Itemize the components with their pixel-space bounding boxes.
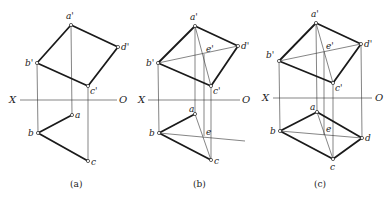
caption-a: (a) (70, 179, 82, 189)
front-view-plane (158, 26, 238, 86)
point-b (157, 131, 160, 134)
panel-b: X O a' d' b' c' e' a b e c (b) (137, 12, 250, 189)
label-e: e (326, 124, 331, 134)
axis-x-label: X (137, 94, 146, 105)
label-c: c (214, 156, 219, 166)
point-d-prime (236, 44, 239, 47)
point-d-prime (359, 42, 362, 45)
projection-line-a (316, 23, 317, 112)
axis-x-label: X (8, 94, 17, 105)
label-b: b (270, 126, 276, 136)
label-c-prime: c' (213, 86, 221, 96)
label-a: a (189, 104, 194, 114)
label-c: c (330, 162, 335, 172)
axis-o-label: O (375, 92, 383, 103)
point-a-prime (193, 24, 196, 27)
label-d: d (365, 133, 371, 143)
point-d-prime (116, 45, 119, 48)
label-b-prime: b' (266, 50, 274, 60)
panel-a: X O a' d' b' c' a b c (a) (8, 11, 129, 189)
diagonal-b-prime-d-prime (158, 46, 238, 63)
projection-line-a (71, 25, 72, 115)
label-a-prime: a' (311, 9, 319, 19)
projection-line-b (37, 63, 38, 133)
point-a (315, 110, 318, 113)
point-a-prime (314, 21, 317, 24)
point-d (360, 136, 363, 139)
label-a: a (310, 102, 315, 112)
label-e-prime: e' (326, 41, 334, 51)
label-b: b (149, 128, 155, 138)
label-d-prime: d' (241, 41, 249, 51)
projection-line-b (158, 63, 159, 133)
label-c-prime: c' (90, 86, 98, 96)
axis-o-label: O (242, 94, 250, 105)
front-view-plane (37, 25, 118, 86)
point-b-prime (156, 61, 159, 64)
axis-o-label: O (119, 94, 127, 105)
label-d-prime: d' (121, 42, 129, 52)
point-c (331, 157, 334, 160)
point-c (86, 159, 89, 162)
point-b-prime (277, 59, 280, 62)
label-d-prime: d' (364, 39, 372, 49)
axis-x-label: X (261, 92, 270, 103)
panel-c: X O a' d' b' c' e' a b e d c (c) (261, 9, 383, 189)
label-c: c (91, 157, 96, 167)
orthographic-projection-diagram: X O a' d' b' c' a b c (a) X O (0, 0, 389, 200)
point-a-prime (69, 23, 72, 26)
label-a: a (75, 110, 80, 120)
point-b-prime (35, 61, 38, 64)
label-b: b (28, 128, 34, 138)
label-b-prime: b' (146, 58, 154, 68)
top-view-plane (280, 112, 362, 159)
point-a (70, 113, 73, 116)
diagonal-a-prime-c-prime (195, 26, 211, 86)
caption-b: (b) (193, 179, 206, 189)
label-a-prime: a' (190, 12, 198, 22)
point-b (278, 129, 281, 132)
label-e-prime: e' (206, 44, 214, 54)
projection-line-d (361, 44, 362, 138)
point-b (36, 131, 39, 134)
point-c (209, 158, 212, 161)
label-c-prime: c' (335, 83, 343, 93)
label-e: e (206, 127, 211, 137)
front-view-plane (279, 23, 361, 83)
projection-line-b (279, 61, 280, 131)
label-b-prime: b' (25, 58, 33, 68)
label-a-prime: a' (66, 11, 74, 21)
caption-c: (c) (314, 179, 326, 189)
diagonal-b-prime-d-prime (279, 44, 361, 61)
top-view-edges (38, 115, 88, 161)
